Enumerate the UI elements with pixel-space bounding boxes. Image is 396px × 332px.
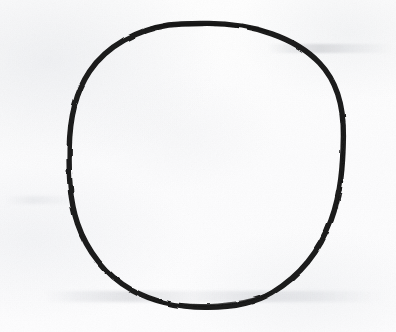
circle-drawing-svg <box>0 0 396 332</box>
scanned-page-canvas <box>0 0 396 332</box>
ink-drawing-layer <box>0 0 396 332</box>
hand-drawn-circle <box>69 23 343 307</box>
